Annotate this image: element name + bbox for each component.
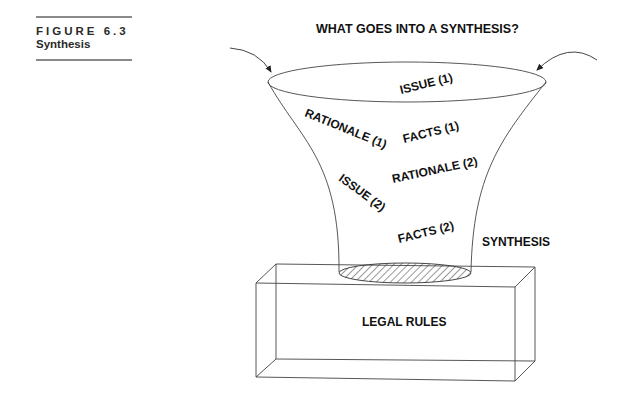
funnel-item-rationale-1: RATIONALE (1) <box>303 106 389 152</box>
synthesis-label: SYNTHESIS <box>482 235 550 249</box>
funnel-item-facts-2: FACTS (2) <box>396 218 455 245</box>
right-input-arrow-icon <box>537 52 597 70</box>
funnel-item-facts-1: FACTS (1) <box>401 118 460 145</box>
synthesis-hatched-outlet <box>339 263 471 283</box>
synthesis-diagram: WHAT GOES INTO A SYNTHESIS? ISSUE (1) RA… <box>0 0 636 408</box>
left-input-arrow-icon <box>230 48 271 72</box>
diagram-title: WHAT GOES INTO A SYNTHESIS? <box>316 22 519 36</box>
funnel-item-issue-2: ISSUE (2) <box>336 171 388 214</box>
legal-rules-label: LEGAL RULES <box>362 315 446 329</box>
funnel-item-issue-1: ISSUE (1) <box>398 70 454 97</box>
funnel-item-rationale-2: RATIONALE (2) <box>391 154 479 186</box>
